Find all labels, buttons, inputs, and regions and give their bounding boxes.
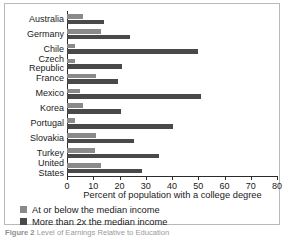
bar-group bbox=[67, 146, 277, 161]
bar-group bbox=[67, 131, 277, 146]
bar-more-than-2x-median bbox=[67, 64, 122, 69]
category-label: Korea bbox=[8, 104, 64, 114]
bar-more-than-2x-median bbox=[67, 139, 134, 144]
bar-at-or-below-median bbox=[67, 103, 83, 108]
bar-group bbox=[67, 101, 277, 116]
bar-group bbox=[67, 57, 277, 72]
category-label: Australia bbox=[8, 15, 64, 25]
bar-at-or-below-median bbox=[67, 148, 95, 153]
bar-group bbox=[67, 161, 277, 176]
x-axis-tick bbox=[198, 177, 199, 180]
legend-swatch-at-or-below bbox=[20, 206, 27, 213]
bar-group bbox=[67, 12, 277, 27]
bar-at-or-below-median bbox=[67, 59, 75, 64]
figure-caption-text: Level of Earnings Relative to Education bbox=[35, 229, 170, 237]
bar-group bbox=[67, 87, 277, 102]
x-axis-tick bbox=[225, 177, 226, 180]
bar-at-or-below-median bbox=[67, 133, 96, 138]
category-label: United States bbox=[8, 159, 64, 178]
bar-at-or-below-median bbox=[67, 118, 75, 123]
x-axis-tick bbox=[251, 177, 252, 180]
x-axis-tick bbox=[120, 177, 121, 180]
bar-more-than-2x-median bbox=[67, 35, 130, 40]
plot-area bbox=[67, 12, 277, 176]
bar-more-than-2x-median bbox=[67, 49, 198, 54]
bar-at-or-below-median bbox=[67, 29, 101, 34]
legend-item: At or below the median income bbox=[20, 204, 270, 215]
legend-label: More than 2x the median income bbox=[32, 217, 167, 227]
figure-container: AustraliaGermanyChileCzech RepublicFranc… bbox=[0, 0, 284, 237]
category-label: Turkey bbox=[8, 149, 64, 159]
legend-label: At or below the median income bbox=[32, 205, 160, 215]
x-axis-tick bbox=[146, 177, 147, 180]
chart-legend: At or below the median incomeMore than 2… bbox=[20, 204, 270, 228]
category-label: Portugal bbox=[8, 119, 64, 129]
x-axis-tick bbox=[172, 177, 173, 180]
bar-more-than-2x-median bbox=[67, 20, 104, 25]
category-label: Chile bbox=[8, 45, 64, 55]
figure-caption: Figure 2 Level of Earnings Relative to E… bbox=[5, 229, 279, 237]
chart-frame: AustraliaGermanyChileCzech RepublicFranc… bbox=[4, 3, 280, 225]
bar-at-or-below-median bbox=[67, 89, 80, 94]
bar-more-than-2x-median bbox=[67, 109, 121, 114]
bar-group bbox=[67, 27, 277, 42]
bar-more-than-2x-median bbox=[67, 79, 118, 84]
category-label: Slovakia bbox=[8, 134, 64, 144]
bar-group bbox=[67, 42, 277, 57]
x-axis-tick bbox=[277, 177, 278, 180]
x-axis-tick bbox=[93, 177, 94, 180]
legend-swatch-more-than-2x bbox=[20, 218, 27, 225]
bar-at-or-below-median bbox=[67, 44, 75, 49]
x-axis-tick bbox=[67, 177, 68, 180]
bar-at-or-below-median bbox=[67, 74, 96, 79]
bar-more-than-2x-median bbox=[67, 94, 201, 99]
category-axis-labels: AustraliaGermanyChileCzech RepublicFranc… bbox=[8, 12, 64, 176]
category-label: France bbox=[8, 74, 64, 84]
bar-at-or-below-median bbox=[67, 14, 83, 19]
category-label: Mexico bbox=[8, 89, 64, 99]
bar-at-or-below-median bbox=[67, 163, 101, 168]
x-axis-title: Percent of population with a college deg… bbox=[67, 190, 278, 200]
figure-caption-prefix: Figure 2 bbox=[5, 229, 35, 237]
category-label: Czech Republic bbox=[8, 55, 64, 74]
bar-group bbox=[67, 72, 277, 87]
bar-more-than-2x-median bbox=[67, 169, 142, 174]
bar-more-than-2x-median bbox=[67, 154, 159, 159]
category-label: Germany bbox=[8, 30, 64, 40]
bar-more-than-2x-median bbox=[67, 124, 173, 129]
bar-group bbox=[67, 116, 277, 131]
legend-item: More than 2x the median income bbox=[20, 216, 270, 227]
